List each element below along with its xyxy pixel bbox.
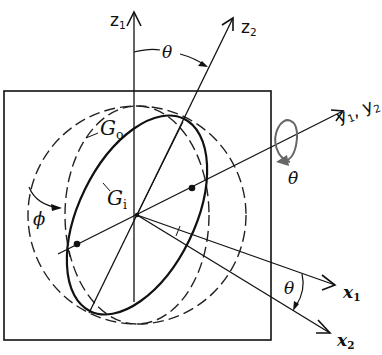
z1-label-sub: 1	[119, 19, 126, 31]
phi-arrowhead-icon	[51, 204, 62, 211]
theta-dot-label: θ̇	[288, 170, 298, 187]
go-label: Go	[100, 118, 123, 141]
x2-arrowhead-icon	[316, 320, 330, 333]
z2-label-base: z	[241, 17, 250, 37]
theta-arc-bottom	[296, 274, 303, 306]
x2-label-sub: 2	[347, 339, 354, 351]
x2-label-base: x	[337, 330, 347, 350]
spoke-right-tick	[176, 226, 180, 236]
gi-label-sub: i	[123, 197, 127, 212]
gi-label-base: G	[107, 186, 123, 210]
z1-label: z1	[110, 12, 126, 31]
theta-bottom-label: θ	[284, 280, 294, 297]
x1-label-sub: 1	[353, 291, 360, 303]
phi-label: ϕ	[33, 210, 45, 228]
gyroscope-diagram	[0, 0, 382, 355]
z2-label-sub: 2	[250, 26, 257, 38]
x1-label-base: x	[343, 282, 353, 302]
go-label-base: G	[100, 116, 116, 140]
theta-arc-top	[134, 49, 160, 52]
theta-top-label: θ	[162, 44, 172, 61]
z2-label: z2	[241, 19, 257, 38]
x2-label: x2	[337, 332, 354, 351]
go-label-sub: o	[116, 127, 123, 142]
x1-label: x1	[343, 284, 360, 303]
z1-label-base: z	[110, 10, 119, 30]
pivot-dot-left	[74, 241, 81, 248]
pivot-dot-right	[189, 185, 196, 192]
spoke-top	[137, 122, 183, 215]
gi-label: Gi	[107, 188, 127, 211]
phi-arc	[29, 187, 60, 208]
